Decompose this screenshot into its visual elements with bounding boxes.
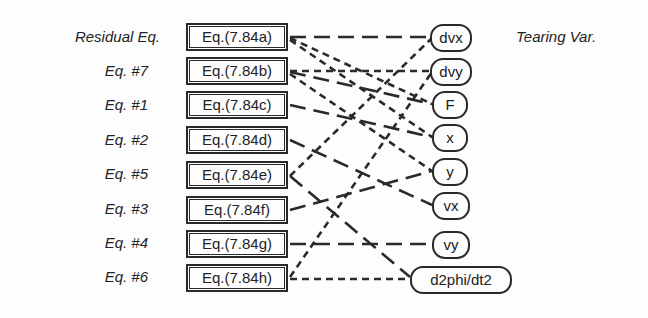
edge-e-d2phi [290,176,410,277]
equation-box-d: Eq.(7.84d) [186,126,288,154]
tearing-diagram: Residual Eq. Tearing Var. Eq. #7 Eq. #1 … [0,0,648,318]
variable-node-F: F [432,91,468,119]
equation-box-b: Eq.(7.84b) [186,57,288,85]
equation-box-c: Eq.(7.84c) [186,91,288,119]
variable-node-dvx: dvx [430,24,472,52]
variable-node-x: x [432,124,468,152]
variable-node-d2phi-dt2: d2phi/dt2 [410,266,512,294]
header-tearing-var: Tearing Var. [516,28,596,45]
row-label-d: Eq. #2 [0,131,148,148]
equation-box-g: Eq.(7.84g) [186,230,288,258]
variable-node-dvy: dvy [430,58,472,86]
row-label-g: Eq. #4 [0,234,148,251]
equation-box-a: Eq.(7.84a) [186,23,288,51]
variable-node-y: y [432,158,468,186]
row-label-c: Eq. #1 [0,96,148,113]
header-residual-eq: Residual Eq. [0,28,160,45]
edge-f-y [290,171,432,210]
row-label-h: Eq. #6 [0,268,148,285]
equation-box-f: Eq.(7.84f) [186,196,288,224]
row-label-e: Eq. #5 [0,165,148,182]
edge-h-dvy [290,72,432,277]
variable-node-vy: vy [432,231,470,259]
variable-node-vx: vx [432,192,470,220]
row-label-f: Eq. #3 [0,200,148,217]
equation-box-h: Eq.(7.84h) [186,264,288,292]
equation-box-e: Eq.(7.84e) [186,161,288,189]
row-label-b: Eq. #7 [0,62,148,79]
